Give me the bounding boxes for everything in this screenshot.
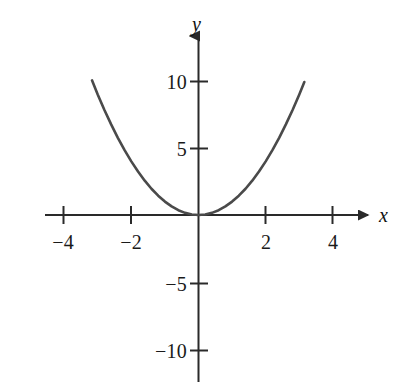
y-tick-label-10: 10 <box>161 72 187 92</box>
x-tick-label--4: −4 <box>52 232 74 252</box>
x-tick-label--2: −2 <box>120 232 142 252</box>
y-tick-label--10: −10 <box>146 341 187 361</box>
y-axis-label: y <box>192 14 201 34</box>
x-axis-label: x <box>379 205 388 225</box>
y-tick-label--5: −5 <box>151 274 187 294</box>
y-tick-label-5: 5 <box>161 139 187 159</box>
parabola-figure: y x −4 −2 2 4 10 5 −5 −10 <box>0 0 406 392</box>
x-tick-label-2: 2 <box>261 232 271 252</box>
x-tick-label-4: 4 <box>328 232 338 252</box>
plot-canvas <box>0 0 406 392</box>
